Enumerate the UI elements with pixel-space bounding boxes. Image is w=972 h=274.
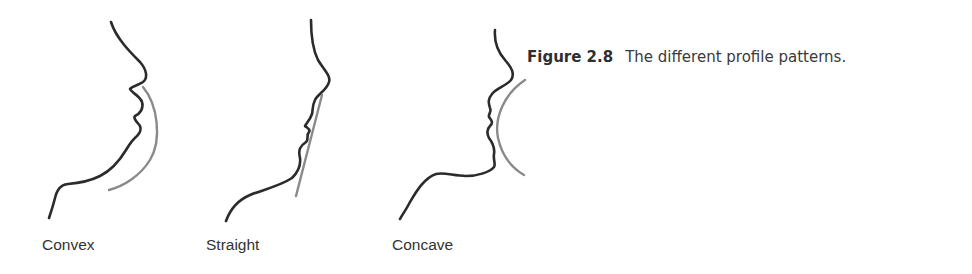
label-concave: Concave [392, 236, 453, 254]
straight-reference-line [296, 95, 322, 196]
concave-reference-arc [497, 80, 525, 175]
label-straight: Straight [206, 236, 259, 254]
profile-drawings [0, 0, 972, 274]
figure-caption-text: The different profile patterns. [625, 48, 846, 66]
straight-profile-drawing [226, 20, 329, 221]
convex-face-outline [49, 22, 146, 218]
label-convex: Convex [42, 236, 95, 254]
figure-page: Convex Straight Concave Figure 2.8The di… [0, 0, 972, 274]
figure-caption: Figure 2.8The different profile patterns… [527, 48, 846, 66]
figure-number: Figure 2.8 [527, 48, 613, 66]
concave-face-outline [400, 30, 513, 219]
convex-profile-drawing [49, 22, 157, 218]
straight-face-outline [226, 20, 329, 221]
concave-profile-drawing [400, 30, 525, 219]
